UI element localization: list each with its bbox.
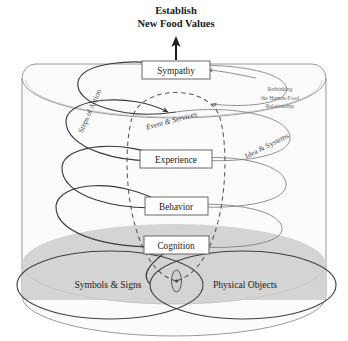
- stage-box-label: Experience: [155, 155, 197, 165]
- diagram-canvas: Establish New Food Values Sympathy Exper…: [0, 0, 348, 341]
- food-values-diagram: Establish New Food Values Sympathy Exper…: [0, 0, 348, 341]
- stage-box-sympathy[interactable]: Sympathy: [142, 61, 210, 79]
- symbols-signs-label: Symbols & Signs: [74, 279, 141, 290]
- title-line-2: New Food Values: [137, 18, 214, 29]
- stage-box-label: Behavior: [159, 202, 194, 212]
- stage-box-experience[interactable]: Experience: [140, 150, 212, 168]
- title-line-1: Establish: [155, 5, 197, 16]
- physical-objects-label: Physical Objects: [213, 279, 277, 290]
- side-note-line-1: Rethinking: [268, 86, 293, 92]
- side-note-line-3: Relationship: [266, 103, 294, 109]
- stage-box-cognition[interactable]: Cognition: [144, 236, 209, 254]
- stage-box-label: Cognition: [157, 241, 195, 251]
- upward-arrow: [171, 36, 180, 60]
- stage-box-label: Sympathy: [157, 66, 195, 76]
- side-note-line-2: the Human-Food: [261, 95, 299, 101]
- stage-box-behavior[interactable]: Behavior: [145, 197, 208, 215]
- page-title: Establish New Food Values: [137, 5, 214, 29]
